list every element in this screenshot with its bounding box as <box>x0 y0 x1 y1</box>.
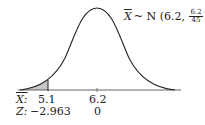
tick-z-zero: 0 <box>94 106 101 118</box>
dist-mean: 6.2 <box>164 10 182 23</box>
dist-symbol: ~ N ( <box>134 10 164 23</box>
z-row-label: Z: <box>16 106 27 118</box>
tick-z-neg: −2.963 <box>30 106 71 118</box>
distribution-label: X ~ N ( 6.2, 6.2 45 ) <box>124 9 205 24</box>
variance-fraction: 6.2 45 <box>189 9 202 24</box>
xbar-symbol: X <box>124 10 132 23</box>
shaded-left-tail <box>20 80 48 90</box>
